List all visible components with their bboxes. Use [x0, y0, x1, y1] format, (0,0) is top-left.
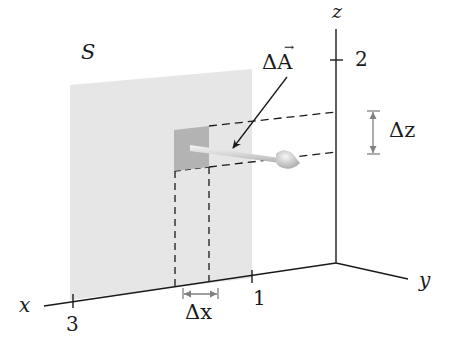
- x-tick-label-1: 1: [253, 288, 266, 308]
- surface-s: [70, 69, 252, 300]
- z-tick-label-2: 2: [355, 49, 368, 69]
- delta-x-label: Δx: [185, 302, 212, 323]
- delta-z-label: Δz: [389, 120, 415, 141]
- x-tick-label-3: 3: [66, 314, 79, 334]
- area-vector-label: ΔA: [262, 52, 292, 73]
- y-axis: [336, 263, 408, 279]
- y-axis-label: y: [419, 270, 430, 290]
- z-axis-label: z: [332, 2, 342, 21]
- area-vector-head: [276, 150, 300, 169]
- diagram-canvas: [0, 0, 452, 342]
- surface-flux-diagram: S ΔA → z 2 Δz x 3 1 Δx y: [0, 0, 452, 342]
- x-axis-label: x: [19, 295, 30, 315]
- surface-label: S: [81, 42, 95, 63]
- vector-accent-arrow: →: [284, 41, 294, 53]
